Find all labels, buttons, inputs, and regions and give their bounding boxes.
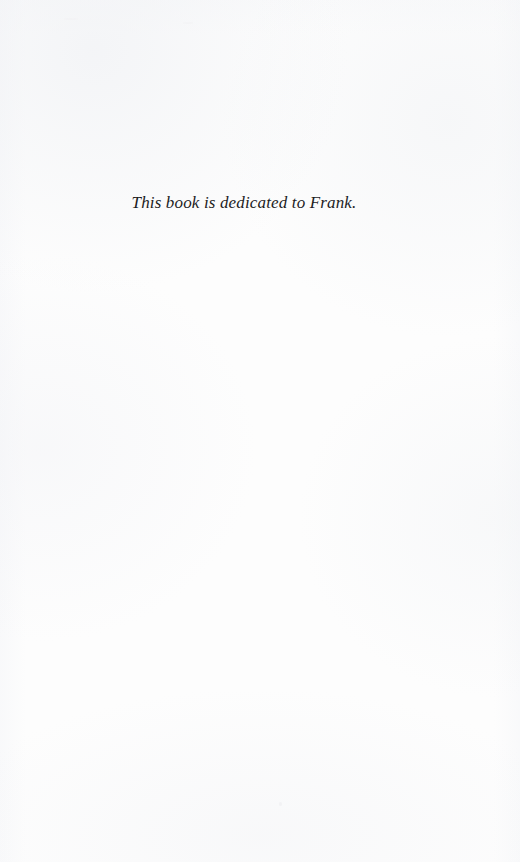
dedication-text: This book is dedicated to Frank. [132, 192, 357, 214]
paper-texture [0, 0, 520, 862]
dedication-block: This book is dedicated to Frank. [0, 192, 520, 214]
scan-speck-icon [64, 18, 78, 20]
scanned-page: This book is dedicated to Frank. [0, 0, 520, 862]
scan-speck-icon [279, 802, 282, 806]
scan-speck-icon [183, 22, 193, 24]
